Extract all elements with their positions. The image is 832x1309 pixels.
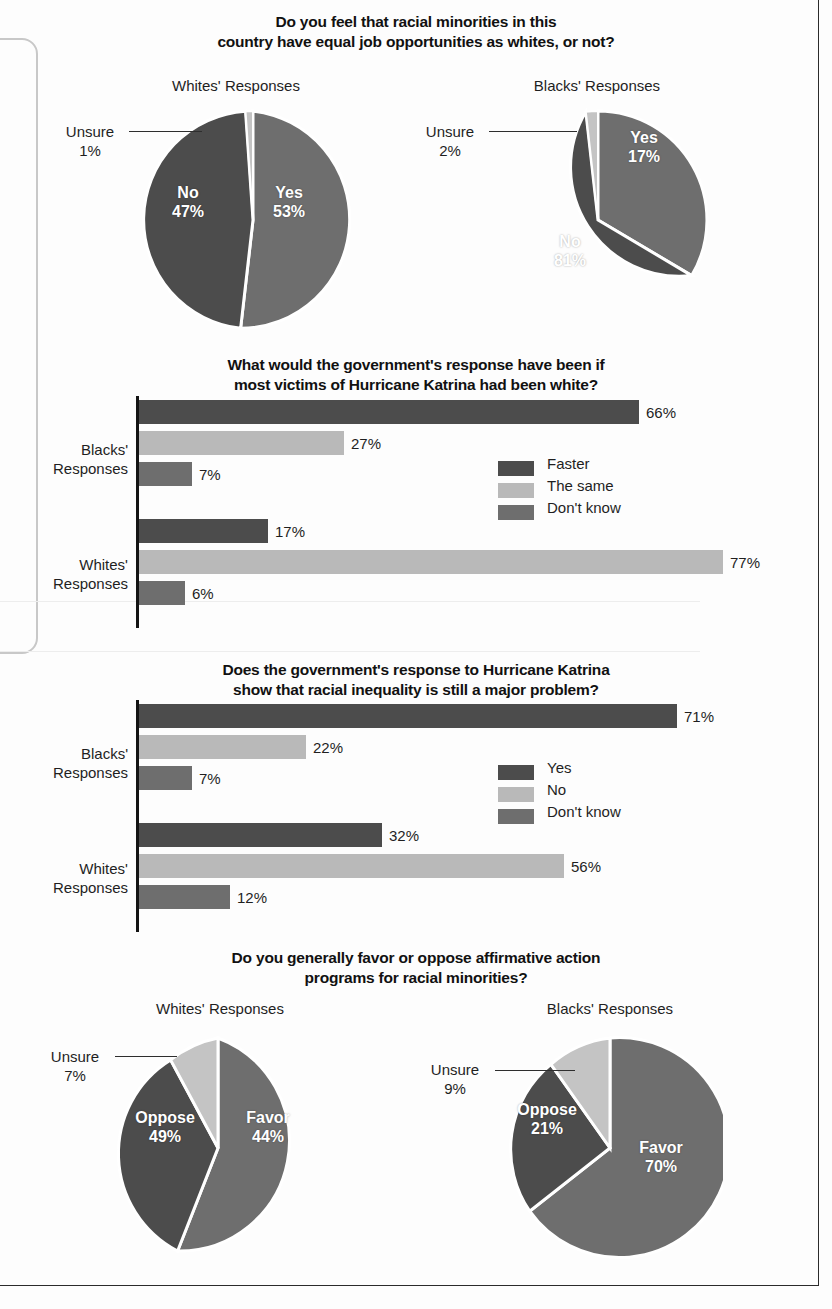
chart2-bar-whites-faster [139,519,268,543]
chart2-legend-label-same: The same [547,477,614,494]
chart4-blacks-label-favor: Favor 70% [621,1138,701,1176]
chart3-legend-label-dontknow: Don't know [547,803,621,820]
chart1-title-line2: country have equal job opportunities as … [116,32,716,52]
chart1-left-panel-label: Whites' Responses [126,77,346,94]
chart3-legend-label-yes: Yes [547,759,571,776]
faint-rule-lower [0,651,700,652]
chart4-whites-label-favor: Favor 44% [228,1108,308,1146]
chart1-whites-callout-value: 1% [49,141,131,160]
chart2-title: What would the government's response hav… [116,355,716,395]
chart3-value-blacks-dontknow: 7% [199,770,221,787]
chart2-bar-whites-dontknow [139,581,185,605]
chart4-blacks-label-oppose: Oppose 21% [502,1100,592,1138]
chart3-bar-whites-no [139,854,564,878]
page-border-bottom [0,1285,819,1286]
chart2-group-label-blacks: Blacks' Responses [8,440,128,478]
chart2-bar-blacks-dontknow [139,462,192,486]
chart1-blacks-label-no-name: No [535,232,605,251]
chart3-group-label-whites-line1: Whites' [8,859,128,878]
chart1-whites-callout-rule [129,131,202,132]
chart1-title-line1: Do you feel that racial minorities in th… [116,12,716,32]
chart4-whites-label-favor-value: 44% [228,1127,308,1146]
chart4-whites-callout-value: 7% [34,1066,116,1085]
chart1-blacks-label-no-value: 81% [535,251,605,270]
chart4-blacks-callout-name: Unsure [414,1060,496,1079]
faint-rule-upper [0,601,700,602]
chart4-blacks-label-favor-name: Favor [621,1138,701,1157]
chart4-left-panel-label: Whites' Responses [110,1000,330,1017]
chart3-title-line1: Does the government's response to Hurric… [116,660,716,680]
chart4-whites-callout-name: Unsure [34,1047,116,1066]
chart1-whites-label-no-name: No [153,183,223,202]
chart3-legend-swatch-yes [498,765,534,780]
chart4-title-line2: programs for racial minorities? [116,968,716,988]
chart2-title-line1: What would the government's response hav… [116,355,716,375]
chart1-blacks-label-yes: Yes 17% [609,128,679,166]
chart3-group-label-blacks: Blacks' Responses [8,744,128,782]
chart1-whites-label-yes-value: 53% [254,202,324,221]
figure-page: Do you feel that racial minorities in th… [0,0,832,1309]
chart4-title-line1: Do you generally favor or oppose affirma… [116,948,716,968]
chart3-group-label-blacks-line1: Blacks' [8,744,128,763]
chart3-bar-blacks-no [139,735,306,759]
chart4-whites-label-oppose-name: Oppose [120,1108,210,1127]
chart1-right-panel-label: Blacks' Responses [487,77,707,94]
chart4-whites-callout-rule [115,1056,177,1057]
chart2-group-label-blacks-line2: Responses [8,459,128,478]
chart1-title: Do you feel that racial minorities in th… [116,12,716,52]
chart2-bar-blacks-same [139,431,344,455]
chart2-value-blacks-same: 27% [351,435,381,452]
chart3-bar-whites-dontknow [139,885,230,909]
chart1-blacks-callout-rule [489,131,577,132]
chart2-bar-blacks-faster [139,400,639,424]
chart4-blacks-label-oppose-value: 21% [502,1119,592,1138]
chart4-whites-label-oppose-value: 49% [120,1127,210,1146]
chart3-legend-swatch-dontknow [498,809,534,824]
chart2-bar-whites-same [139,550,723,574]
chart2-legend-label-dontknow: Don't know [547,499,621,516]
chart1-whites-callout-name: Unsure [49,122,131,141]
chart2-group-label-whites-line1: Whites' [8,555,128,574]
chart1-blacks-label-yes-value: 17% [609,147,679,166]
chart1-blacks-callout-value: 2% [409,141,491,160]
chart1-blacks-label-no: No 81% [535,232,605,270]
chart3-value-blacks-yes: 71% [684,708,714,725]
chart1-whites-label-no-value: 47% [153,202,223,221]
chart4-whites-label-oppose: Oppose 49% [120,1108,210,1146]
chart4-blacks-label-oppose-name: Oppose [502,1100,592,1119]
chart3-legend-label-no: No [547,781,566,798]
chart3-value-whites-no: 56% [571,858,601,875]
chart4-blacks-callout-value: 9% [414,1079,496,1098]
chart2-value-whites-dontknow: 6% [192,585,214,602]
chart1-blacks-label-yes-name: Yes [609,128,679,147]
chart2-value-whites-faster: 17% [275,523,305,540]
chart3-bar-blacks-dontknow [139,766,192,790]
chart4-whites-callout: Unsure 7% [34,1047,116,1085]
chart3-legend-swatch-no [498,787,534,802]
chart3-title-line2: show that racial inequality is still a m… [116,680,716,700]
chart2-legend-swatch-faster [498,461,534,476]
chart4-whites-pie [105,1035,331,1261]
chart3-group-label-whites: Whites' Responses [8,859,128,897]
chart1-whites-callout: Unsure 1% [49,122,131,160]
chart2-legend-swatch-dontknow [498,505,534,520]
chart2-group-label-whites-line2: Responses [8,574,128,593]
chart2-title-line2: most victims of Hurricane Katrina had be… [116,375,716,395]
chart1-whites-label-yes-name: Yes [254,183,324,202]
chart3-value-whites-dontknow: 12% [237,889,267,906]
chart1-whites-label-yes: Yes 53% [254,183,324,221]
chart1-whites-label-no: No 47% [153,183,223,221]
chart2-value-blacks-faster: 66% [646,404,676,421]
chart2-value-blacks-dontknow: 7% [199,466,221,483]
chart3-value-whites-yes: 32% [389,827,419,844]
chart3-group-label-whites-line2: Responses [8,878,128,897]
chart2-value-whites-same: 77% [730,554,760,571]
chart4-blacks-label-favor-value: 70% [621,1157,701,1176]
chart2-legend-label-faster: Faster [547,455,590,472]
chart4-whites-label-favor-name: Favor [228,1108,308,1127]
chart1-blacks-callout: Unsure 2% [409,122,491,160]
chart3-value-blacks-no: 22% [313,739,343,756]
page-border-right [818,0,819,1285]
chart4-right-panel-label: Blacks' Responses [500,1000,720,1017]
chart4-whites-pie-svg [105,1035,331,1261]
